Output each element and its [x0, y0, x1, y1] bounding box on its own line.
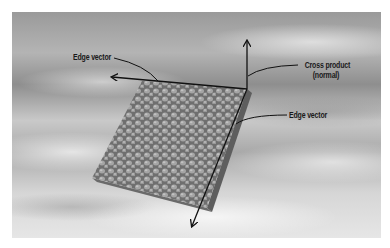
- vector-diagram: [0, 0, 390, 248]
- edge-vector-label-top: Edge vector: [73, 52, 111, 62]
- cross-product-label-line1: Cross product: [305, 60, 348, 70]
- textured-tile: [92, 81, 252, 212]
- edge-vector-label-right: Edge vector: [289, 110, 327, 120]
- leader-line-cross-product: [248, 65, 298, 76]
- cross-product-label: Cross product (normal): [305, 60, 348, 80]
- cross-product-label-line2: (normal): [305, 70, 348, 80]
